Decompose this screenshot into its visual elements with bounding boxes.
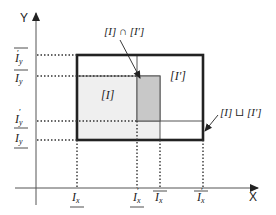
svg-text:′: ′ bbox=[17, 48, 19, 58]
y-tick-labels: Iy ′ Iy Iy ′ Iy bbox=[14, 48, 28, 148]
label-intersection: [I] ∩ [I′] bbox=[104, 25, 144, 37]
svg-text:Ix: Ix bbox=[71, 190, 80, 205]
svg-text:Iy: Iy bbox=[14, 71, 23, 86]
x-tick-labels: Ix Ix ′ Ix Ix ′ bbox=[70, 186, 208, 207]
svg-text:′: ′ bbox=[137, 186, 139, 196]
label-I: [I] bbox=[101, 88, 115, 102]
label-I-prime: [I′] bbox=[170, 69, 186, 83]
svg-text:′: ′ bbox=[19, 107, 21, 117]
svg-text:Iy: Iy bbox=[14, 131, 23, 146]
hull-pointer-arrow bbox=[205, 115, 218, 131]
y-axis-label: Y bbox=[20, 11, 28, 25]
x-axis-label: X bbox=[249, 190, 257, 204]
label-hull: [I] ⊔ [I′] bbox=[220, 106, 262, 118]
region-intersection bbox=[137, 76, 160, 121]
interval-diagram: Y X Iy ′ Iy Iy ′ Iy Ix Ix ′ Ix Ix ′ [I] … bbox=[0, 0, 276, 215]
svg-text:Ix: Ix bbox=[154, 190, 163, 205]
